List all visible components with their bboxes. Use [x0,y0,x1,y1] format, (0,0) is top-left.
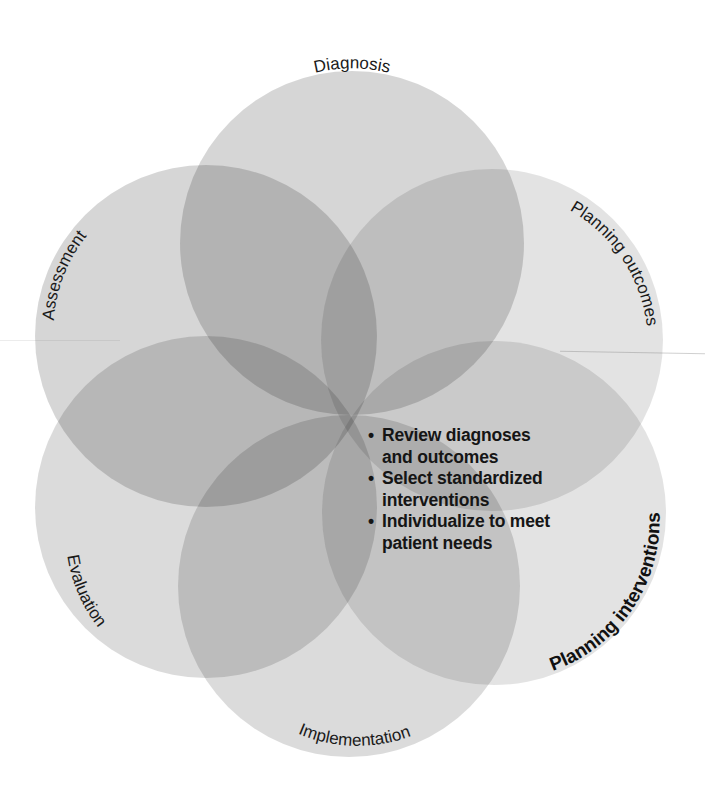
bullet-line: interventions [382,490,568,512]
bullet-line: Review diagnoses [382,425,568,447]
bullet-line: Individualize to meet [382,511,568,533]
scan-artifact-line [0,340,120,341]
bullet-line: and outcomes [382,447,568,469]
bullet-line: Select standardized [382,468,568,490]
planning-interventions-bullet-list: Review diagnoses and outcomes Select sta… [368,425,568,554]
bullet-individualize: Individualize to meet patient needs [368,511,568,554]
bullet-review-diagnoses: Review diagnoses and outcomes [368,425,568,468]
bullet-line: patient needs [382,533,568,555]
circle-assessment [35,165,377,507]
nursing-process-diagram: Diagnosis Planning outcomes Planning int… [0,0,705,786]
bullet-select-interventions: Select standardized interventions [368,468,568,511]
